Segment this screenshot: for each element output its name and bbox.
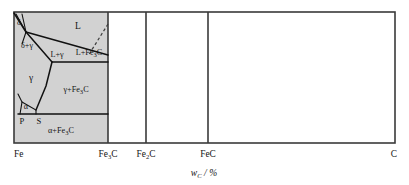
region-label-liquid-cementite: L+Fe3C: [76, 48, 103, 58]
region-label-delta-gamma: δ+γ: [21, 41, 33, 50]
point-label-s: S: [37, 116, 42, 126]
point-label-p: P: [20, 116, 25, 126]
fe-c-phase-diagram: L δ+γ δ L+γ L+Fe3C γ γ+Fe3C α α+Fe3C P S…: [0, 0, 409, 185]
phase-diagram-svg: L δ+γ δ L+γ L+Fe3C γ γ+Fe3C α α+Fe3C P S…: [0, 0, 409, 185]
region-label-alpha-cementite: α+Fe3C: [48, 126, 74, 136]
region-label-liquid-gamma: L+γ: [50, 50, 64, 59]
region-label-gamma-cementite: γ+Fe3C: [62, 85, 89, 95]
region-label-delta: δ: [17, 18, 21, 27]
region-label-alpha: α: [24, 102, 29, 111]
region-label-liquid: L: [75, 21, 81, 31]
region-label-gamma: γ: [28, 73, 33, 83]
axis-tick-fe: Fe: [14, 149, 23, 159]
axis-tick-fec: FeC: [200, 149, 216, 159]
axis-tick-c: C: [391, 149, 397, 159]
axis-tick-fe3c: Fe3C: [99, 149, 118, 160]
axis-tick-fe2c: Fe2C: [137, 149, 156, 160]
x-axis-title: wC / %: [191, 167, 217, 179]
